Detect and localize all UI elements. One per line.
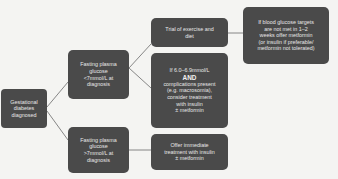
node-text-line: Fasting plasma: [80, 61, 117, 68]
node-text-line: Fasting plasma: [80, 137, 117, 144]
node-text-line: diagnosis: [87, 157, 110, 164]
node-text-line: If blood glucose targets: [258, 19, 314, 26]
node-text-line: diet: [185, 33, 194, 40]
node-text-line: with insulin: [176, 101, 202, 108]
node-fasting-glucose-above-7: Fasting plasma glucose >7mmol/L at diagn…: [68, 127, 129, 173]
node-text-line: diagnosis: [87, 81, 110, 88]
node-text-line: consider treatment: [167, 94, 212, 101]
node-offer-immediate-treatment: Offer immediate treatment with insulin ±…: [151, 134, 228, 170]
edge-root-to-fpg-low: [47, 82, 68, 107]
node-text-line: If 6.0–6.9mmol/L: [169, 67, 209, 74]
node-trial-exercise-diet: Trial of exercise and diet: [151, 18, 228, 47]
edge-fpg-low-to-trial: [129, 44, 151, 68]
node-text-line: weeks offer metformin: [260, 32, 313, 39]
node-text-line: ± metformin: [175, 107, 203, 114]
node-text-line: metformin not tolerated): [257, 45, 314, 52]
edge-root-to-fpg-high: [47, 111, 68, 140]
node-offer-metformin: If blood glucose targets are not met in …: [243, 7, 329, 64]
node-text-line: are not met in 1–2: [264, 26, 307, 33]
flowchart-canvas: Gestational diabetes diagnosed Fasting p…: [0, 0, 338, 179]
edge-fpg-low-to-complications: [129, 68, 151, 88]
node-and-label: AND: [183, 74, 197, 81]
node-gestational-diabetes-diagnosed: Gestational diabetes diagnosed: [1, 89, 47, 128]
node-text-line: >7mmol/L at: [84, 150, 114, 157]
node-text-line: Gestational: [10, 99, 37, 106]
node-complications-consider-insulin: If 6.0–6.9mmol/L AND complications prese…: [151, 53, 228, 128]
node-text-line: glucose: [89, 143, 108, 150]
node-text-line: diabetes: [14, 105, 34, 112]
node-text-line: glucose: [89, 68, 108, 75]
node-fasting-glucose-below-7: Fasting plasma glucose <7mmol/L at diagn…: [68, 50, 129, 99]
node-text-line: Offer immediate: [170, 142, 208, 149]
node-text-line: complications present: [163, 81, 215, 88]
node-text-line: diagnosed: [12, 112, 37, 119]
node-text-line: ± metformin: [175, 155, 203, 162]
node-text-line: Trial of exercise and: [165, 26, 213, 33]
node-text-line: <7mmol/L at: [84, 75, 114, 82]
node-text-line: (or insulin if preferable/: [259, 39, 314, 46]
node-text-line: (e.g. macrosomia),: [167, 87, 212, 94]
node-text-line: treatment with insulin: [164, 149, 215, 156]
